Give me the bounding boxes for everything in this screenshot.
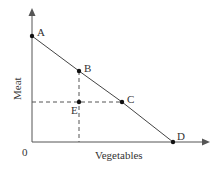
y-axis-arrow-icon [29,8,36,16]
label-c: C [127,93,134,105]
label-b: B [84,62,91,74]
point-a [30,34,34,38]
x-axis-arrow-icon [202,139,210,146]
y-axis-label: Meat [11,77,23,100]
point-b [77,69,81,73]
label-d: D [177,130,185,142]
label-e: E [71,104,78,116]
point-d [171,140,175,144]
x-axis-label: Vegetables [95,149,143,161]
ppf-diagram: A B C D E Vegetables Meat 0 [0,0,217,169]
point-c [120,100,124,104]
label-a: A [37,26,45,38]
ppf-line [32,36,173,142]
origin-label: 0 [22,146,28,158]
